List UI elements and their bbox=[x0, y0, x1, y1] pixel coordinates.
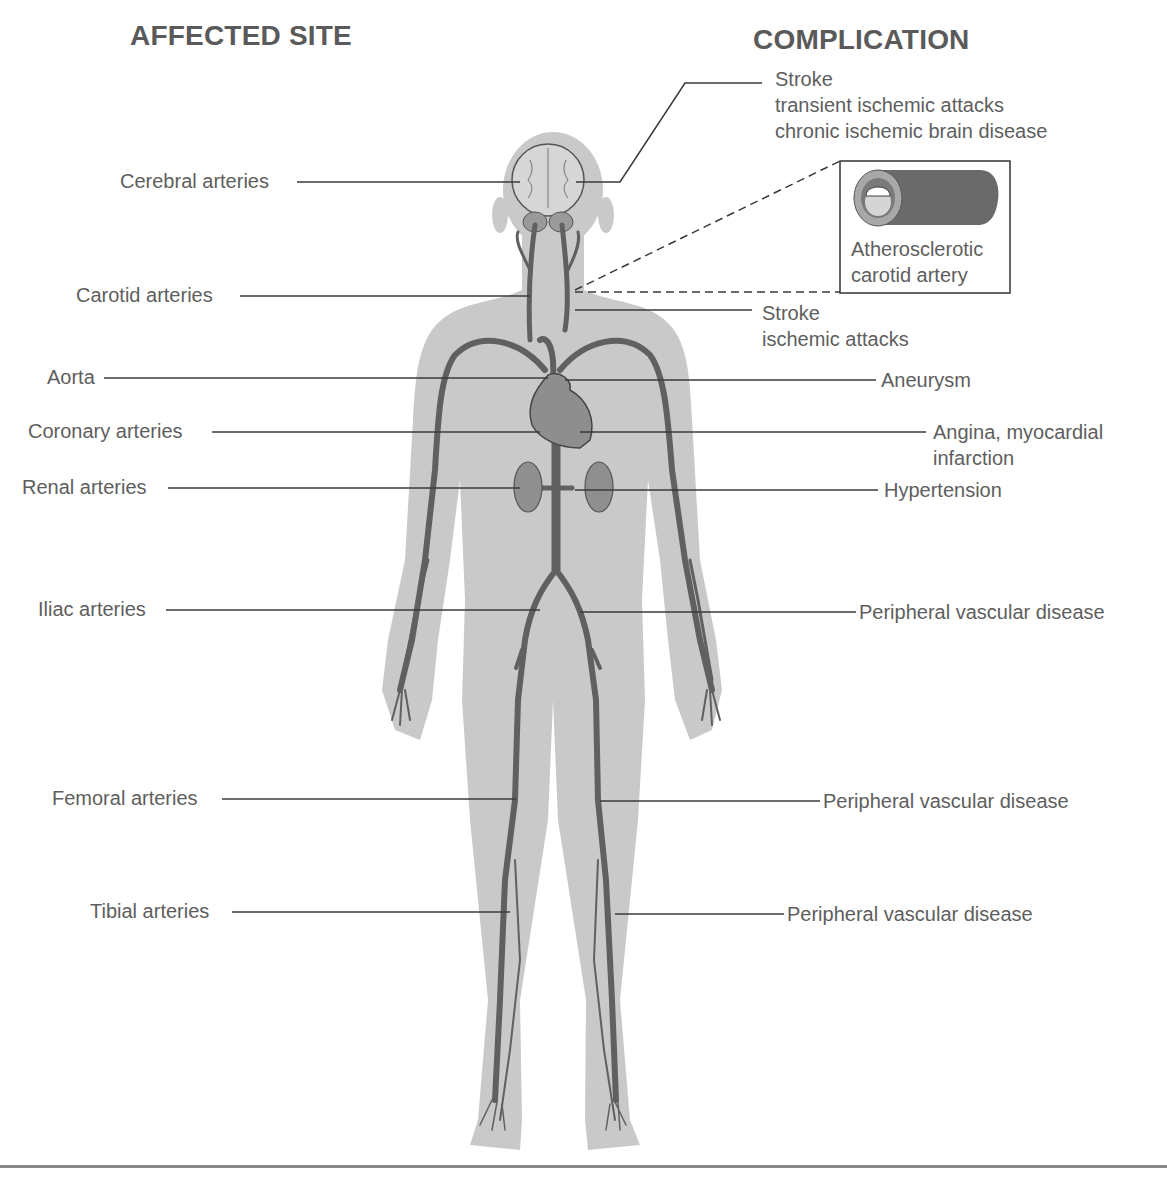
label-tibial-arteries: Tibial arteries bbox=[90, 898, 209, 924]
label-coronary-arteries: Coronary arteries bbox=[28, 418, 183, 444]
label-carotid-arteries: Carotid arteries bbox=[76, 282, 213, 308]
label-iliac-arteries: Iliac arteries bbox=[38, 596, 146, 622]
body-silhouette bbox=[382, 132, 722, 1150]
label-aorta: Aorta bbox=[47, 364, 95, 390]
label-cerebral-arteries: Cerebral arteries bbox=[120, 168, 269, 194]
inset-callout-lines bbox=[575, 161, 840, 292]
complication-aorta: Aneurysm bbox=[881, 367, 971, 393]
artery-cross-section-icon bbox=[854, 170, 998, 226]
label-femoral-arteries: Femoral arteries bbox=[52, 785, 198, 811]
bottom-divider bbox=[0, 1165, 1167, 1168]
complication-tibial: Peripheral vascular disease bbox=[787, 901, 1033, 927]
label-renal-arteries: Renal arteries bbox=[22, 474, 147, 500]
complication-carotid: Stroke ischemic attacks bbox=[762, 300, 909, 352]
complication-renal: Hypertension bbox=[884, 477, 1002, 503]
complication-iliac: Peripheral vascular disease bbox=[859, 599, 1105, 625]
complication-cerebral: Stroke transient ischemic attacks chroni… bbox=[775, 66, 1047, 144]
inset-caption: Atherosclerotic carotid artery bbox=[851, 236, 983, 288]
complication-coronary: Angina, myocardial infarction bbox=[933, 419, 1103, 471]
complication-femoral: Peripheral vascular disease bbox=[823, 788, 1069, 814]
